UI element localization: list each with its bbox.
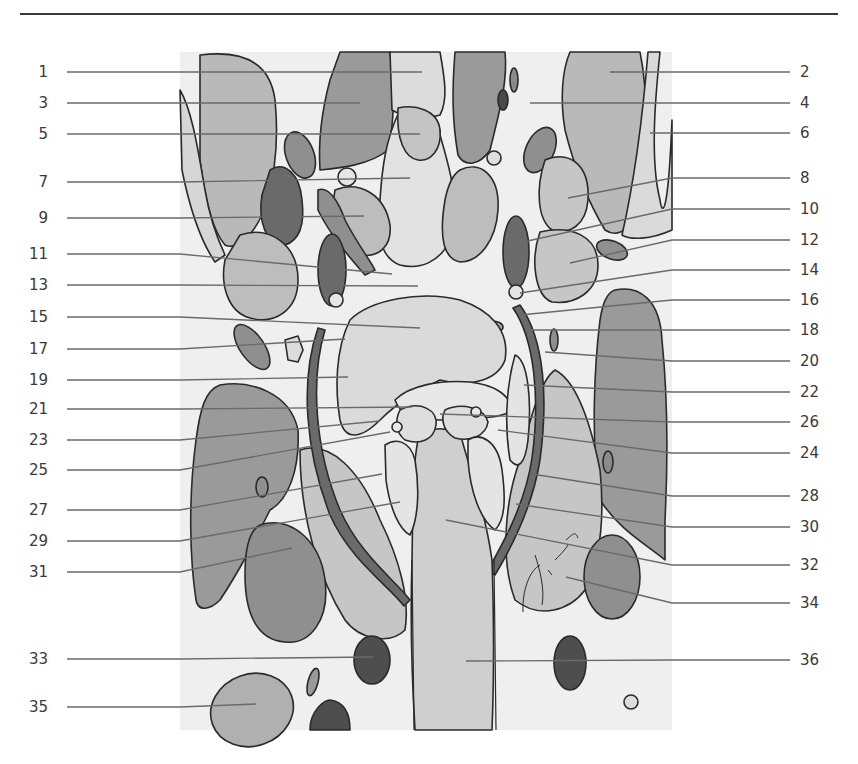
callout-label-3: 3 (8, 95, 48, 111)
callout-label-5: 5 (8, 126, 48, 142)
left-small-ring (392, 422, 402, 432)
callout-label-6: 6 (800, 125, 840, 141)
callout-label-33: 33 (8, 651, 48, 667)
callout-label-24: 24 (800, 445, 840, 461)
callout-label-22: 22 (800, 384, 840, 400)
callout-label-30: 30 (800, 519, 840, 535)
callout-label-34: 34 (800, 595, 840, 611)
callout-label-15: 15 (8, 309, 48, 325)
callout-label-11: 11 (8, 246, 48, 262)
left-ring-structure (338, 168, 356, 186)
callout-label-32: 32 (800, 557, 840, 573)
left-white-lumen (329, 293, 343, 307)
callout-label-10: 10 (800, 201, 840, 217)
illustration (180, 52, 672, 758)
right-upper-lobe (539, 157, 588, 231)
right-lower-lobe (535, 230, 598, 303)
callout-label-7: 7 (8, 174, 48, 190)
callout-label-9: 9 (8, 210, 48, 226)
callout-label-8: 8 (800, 170, 840, 186)
callout-label-2: 2 (800, 64, 840, 80)
leader-line-13 (67, 285, 418, 286)
callout-label-35: 35 (8, 699, 48, 715)
bottom-left-dark-oval (354, 636, 390, 684)
callout-label-20: 20 (800, 353, 840, 369)
left-cup-structure (397, 406, 436, 442)
bottom-right-small-circle (624, 695, 638, 709)
right-lower-dark-oval (584, 535, 640, 619)
callout-label-36: 36 (800, 652, 840, 668)
callout-label-16: 16 (800, 292, 840, 308)
callout-label-17: 17 (8, 341, 48, 357)
left-lower-lobe (224, 232, 298, 319)
callout-label-19: 19 (8, 372, 48, 388)
right-white-lumen (509, 285, 523, 299)
callout-label-23: 23 (8, 432, 48, 448)
small-round-structure (487, 151, 501, 165)
callout-label-4: 4 (800, 95, 840, 111)
callout-label-28: 28 (800, 488, 840, 504)
callout-label-1: 1 (8, 64, 48, 80)
small-dark-vessel-top (510, 68, 518, 92)
callout-label-21: 21 (8, 401, 48, 417)
callout-label-31: 31 (8, 564, 48, 580)
callout-label-29: 29 (8, 533, 48, 549)
callout-label-13: 13 (8, 277, 48, 293)
right-dark-vessel (503, 216, 529, 288)
callout-label-27: 27 (8, 502, 48, 518)
right-tiny-dark-oval (550, 329, 558, 351)
callout-label-18: 18 (800, 322, 840, 338)
callout-label-12: 12 (800, 232, 840, 248)
leader-line-36 (466, 660, 790, 661)
anatomical-diagram (0, 0, 858, 764)
callout-label-26: 26 (800, 414, 840, 430)
right-tiny-dark-vessel (603, 451, 613, 473)
small-dark-vessel-top-2 (498, 90, 508, 110)
callout-label-25: 25 (8, 462, 48, 478)
callout-label-14: 14 (800, 262, 840, 278)
bottom-right-dark-oval (554, 636, 586, 690)
